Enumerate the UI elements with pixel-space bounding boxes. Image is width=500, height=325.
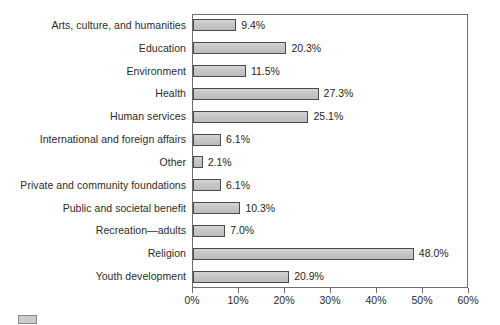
bar <box>193 156 203 168</box>
category-label: Private and community foundations <box>0 180 186 191</box>
x-axis-tick-label: 20% <box>273 294 294 306</box>
bar <box>193 225 225 237</box>
bar-row: Arts, culture, and humanities9.4% <box>0 14 500 37</box>
category-label: Environment <box>0 66 186 77</box>
bar-with-value: 20.9% <box>193 271 324 283</box>
bar-with-value: 7.0% <box>193 225 254 237</box>
bar <box>193 271 289 283</box>
bar-value-label: 25.1% <box>313 111 343 122</box>
x-axis-tick <box>376 288 377 293</box>
category-label: Arts, culture, and humanities <box>0 20 186 31</box>
x-axis-tick-label: 10% <box>227 294 248 306</box>
bar-row: Public and societal benefit10.3% <box>0 197 500 220</box>
bar-row: International and foreign affairs6.1% <box>0 128 500 151</box>
bar-row: Youth development20.9% <box>0 265 500 288</box>
bar-with-value: 48.0% <box>193 248 449 260</box>
bar <box>193 111 308 123</box>
x-axis-tick <box>422 288 423 293</box>
bar-value-label: 2.1% <box>208 157 232 168</box>
x-axis-tick-label: 0% <box>184 294 199 306</box>
bar-with-value: 11.5% <box>193 65 280 77</box>
bar-value-label: 20.9% <box>294 271 324 282</box>
bar-value-label: 11.5% <box>251 66 280 77</box>
x-axis-tick-label: 50% <box>411 294 432 306</box>
category-label: Education <box>0 43 186 54</box>
bar-value-label: 7.0% <box>230 225 254 236</box>
legend <box>18 315 42 324</box>
bar <box>193 42 286 54</box>
bar-value-label: 9.4% <box>241 20 265 31</box>
bar-chart: Arts, culture, and humanities9.4%Educati… <box>0 0 500 325</box>
bar-row: Human services25.1% <box>0 105 500 128</box>
bar-with-value: 20.3% <box>193 42 321 54</box>
bar-row: Religion48.0% <box>0 242 500 265</box>
bar-with-value: 27.3% <box>193 88 353 100</box>
bar <box>193 179 221 191</box>
bar-value-label: 10.3% <box>245 203 275 214</box>
bar-with-value: 6.1% <box>193 179 250 191</box>
x-axis-tick <box>192 288 193 293</box>
legend-swatch <box>18 315 37 324</box>
x-axis-tick <box>238 288 239 293</box>
bar-with-value: 25.1% <box>193 111 343 123</box>
bar <box>193 19 236 31</box>
category-label: Public and societal benefit <box>0 203 186 214</box>
bar-row: Environment11.5% <box>0 60 500 83</box>
bar <box>193 65 246 77</box>
x-axis-tick-label: 60% <box>457 294 478 306</box>
category-label: International and foreign affairs <box>0 134 186 145</box>
bar-with-value: 10.3% <box>193 202 275 214</box>
bar-row: Health27.3% <box>0 83 500 106</box>
bar-value-label: 27.3% <box>324 88 354 99</box>
x-axis-tick <box>330 288 331 293</box>
category-label: Recreation—adults <box>0 225 186 236</box>
bar-with-value: 6.1% <box>193 134 250 146</box>
bar <box>193 88 319 100</box>
bar-row: Private and community foundations6.1% <box>0 174 500 197</box>
category-label: Health <box>0 88 186 99</box>
category-label: Religion <box>0 248 186 259</box>
bar-value-label: 48.0% <box>419 248 449 259</box>
bar-row: Recreation—adults7.0% <box>0 220 500 243</box>
bar-row: Education20.3% <box>0 37 500 60</box>
bar <box>193 202 240 214</box>
bar-value-label: 6.1% <box>226 180 250 191</box>
bar <box>193 248 414 260</box>
bar-value-label: 20.3% <box>291 43 321 54</box>
x-axis-tick-label: 30% <box>319 294 340 306</box>
category-label: Youth development <box>0 271 186 282</box>
x-axis-tick-label: 40% <box>365 294 386 306</box>
category-label: Other <box>0 157 186 168</box>
bar-with-value: 9.4% <box>193 19 265 31</box>
bar-rows: Arts, culture, and humanities9.4%Educati… <box>0 14 500 288</box>
bar <box>193 134 221 146</box>
bar-value-label: 6.1% <box>226 134 250 145</box>
x-axis-tick <box>468 288 469 293</box>
x-axis-tick-labels: 0%10%20%30%40%50%60% <box>192 294 468 308</box>
bar-row: Other2.1% <box>0 151 500 174</box>
bar-with-value: 2.1% <box>193 156 232 168</box>
category-label: Human services <box>0 111 186 122</box>
x-axis-tick <box>284 288 285 293</box>
